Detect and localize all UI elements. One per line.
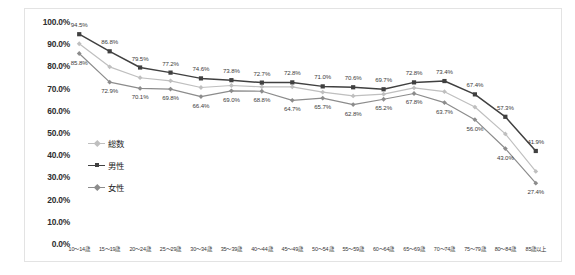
data-point-0-8 — [320, 90, 325, 95]
legend-item-1[interactable]: 男性 — [88, 154, 168, 176]
value-label-1-6: 72.7% — [253, 70, 270, 77]
value-label-2-5: 69.0% — [223, 96, 240, 103]
value-label-1-2: 79.5% — [132, 55, 149, 62]
value-label-2-9: 62.8% — [345, 110, 362, 117]
x-axis-tick-15: 85歳以上 — [526, 245, 547, 253]
data-point-1-13 — [473, 92, 477, 96]
value-label-2-3: 69.8% — [162, 94, 179, 101]
value-label-2-6: 68.8% — [253, 96, 270, 103]
data-point-0-10 — [381, 92, 386, 97]
data-point-0-5 — [229, 83, 234, 88]
data-point-1-14 — [503, 115, 507, 119]
value-label-1-5: 73.8% — [223, 67, 240, 74]
value-label-1-13: 67.4% — [467, 81, 484, 88]
value-label-2-8: 65.7% — [314, 103, 331, 110]
data-point-0-11 — [412, 86, 417, 91]
data-point-2-7 — [290, 98, 295, 103]
value-label-2-1: 72.9% — [101, 87, 118, 94]
value-label-2-11: 67.8% — [406, 98, 423, 105]
value-label-1-15: 41.9% — [527, 138, 544, 145]
value-label-2-13: 56.0% — [467, 125, 484, 132]
value-label-1-0: 94.5% — [71, 21, 88, 28]
x-axis-tick-11: 65〜69歳 — [403, 245, 424, 253]
data-point-1-4 — [199, 76, 203, 80]
data-point-0-12 — [442, 89, 447, 94]
x-axis-tick-12: 70〜74歳 — [434, 245, 455, 253]
legend-swatch-icon-0 — [88, 139, 105, 148]
legend-swatch-icon-1 — [88, 161, 105, 170]
value-label-2-15: 27.4% — [527, 188, 544, 195]
data-point-0-7 — [290, 84, 295, 89]
data-point-1-9 — [351, 85, 355, 89]
data-point-2-9 — [351, 102, 356, 107]
x-axis-tick-9: 55〜59歳 — [342, 245, 363, 253]
data-point-1-1 — [108, 49, 112, 53]
x-axis-tick-3: 25〜29歳 — [160, 245, 181, 253]
value-label-1-11: 72.8% — [406, 69, 423, 76]
x-axis-tick-5: 35〜39歳 — [221, 245, 242, 253]
chart-container: 0.0%10.0%20.0%30.0%40.0%50.0%60.0%70.0%8… — [0, 0, 575, 275]
data-point-0-3 — [168, 78, 173, 83]
x-axis-tick-labels: 10〜14歳15〜19歳20〜24歳25〜29歳30〜34歳35〜39歳40〜4… — [64, 245, 551, 259]
data-point-2-4 — [199, 94, 204, 99]
value-label-1-4: 74.6% — [193, 65, 210, 72]
value-label-1-14: 57.3% — [497, 104, 514, 111]
x-axis-tick-14: 80〜84歳 — [495, 245, 516, 253]
data-point-1-8 — [321, 84, 325, 88]
value-label-2-12: 63.7% — [436, 108, 453, 115]
value-label-2-14: 43.0% — [497, 154, 514, 161]
data-point-1-15 — [534, 149, 538, 153]
value-label-1-10: 69.7% — [375, 76, 392, 83]
data-point-2-10 — [381, 97, 386, 102]
data-point-1-11 — [412, 80, 416, 84]
data-point-0-6 — [259, 84, 264, 89]
data-point-0-9 — [351, 94, 356, 99]
data-point-2-5 — [229, 88, 234, 93]
x-axis-tick-4: 30〜34歳 — [190, 245, 211, 253]
data-point-2-12 — [442, 100, 447, 105]
legend-swatch-icon-2 — [88, 183, 105, 192]
legend-label-2: 女性 — [108, 181, 124, 193]
x-axis-tick-0: 10〜14歳 — [69, 245, 90, 253]
data-point-1-3 — [168, 71, 172, 75]
value-label-1-3: 77.2% — [162, 60, 179, 67]
data-point-1-12 — [442, 79, 446, 83]
value-label-2-2: 70.1% — [132, 93, 149, 100]
data-point-2-6 — [259, 89, 264, 94]
value-label-1-9: 70.6% — [345, 74, 362, 81]
value-label-1-8: 71.0% — [314, 73, 331, 80]
value-label-1-1: 86.8% — [101, 38, 118, 45]
chart-legend: 総数男性女性 — [88, 132, 168, 198]
value-label-2-10: 65.2% — [375, 104, 392, 111]
value-label-1-12: 73.4% — [436, 68, 453, 75]
x-axis-tick-13: 75〜79歳 — [464, 245, 485, 253]
data-point-2-11 — [412, 91, 417, 96]
data-point-2-2 — [138, 86, 143, 91]
legend-label-1: 男性 — [108, 159, 124, 171]
data-point-1-5 — [229, 78, 233, 82]
data-point-2-8 — [320, 96, 325, 101]
x-axis-tick-6: 40〜44歳 — [251, 245, 272, 253]
data-point-0-4 — [199, 85, 204, 90]
data-point-0-2 — [138, 75, 143, 80]
data-point-1-6 — [260, 81, 264, 85]
data-point-1-0 — [77, 32, 81, 36]
data-point-1-7 — [290, 80, 294, 84]
data-point-1-2 — [138, 65, 142, 69]
x-axis-tick-7: 45〜49歳 — [282, 245, 303, 253]
value-label-2-0: 85.8% — [71, 59, 88, 66]
x-axis-tick-10: 60〜64歳 — [373, 245, 394, 253]
value-label-2-7: 64.7% — [284, 105, 301, 112]
legend-label-0: 総数 — [108, 137, 124, 149]
legend-item-2[interactable]: 女性 — [88, 176, 168, 198]
data-point-2-3 — [168, 87, 173, 92]
x-axis-tick-8: 50〜54歳 — [312, 245, 333, 253]
x-axis-tick-1: 15〜19歳 — [99, 245, 120, 253]
value-label-2-4: 66.4% — [193, 102, 210, 109]
legend-item-0[interactable]: 総数 — [88, 132, 168, 154]
value-label-1-7: 72.8% — [284, 69, 301, 76]
data-point-1-10 — [381, 87, 385, 91]
x-axis-tick-2: 20〜24歳 — [129, 245, 150, 253]
